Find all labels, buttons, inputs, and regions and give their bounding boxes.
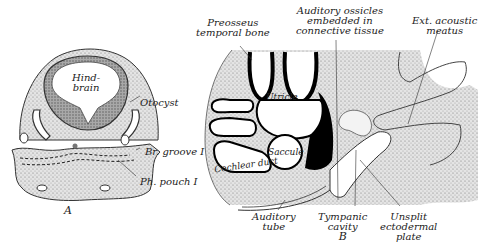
- panel-b-letter: B: [318, 232, 367, 242]
- label-auditory-tube: Auditory tube: [252, 212, 296, 232]
- label-plate-line3: plate: [380, 232, 437, 242]
- label-utricle: Utricle: [266, 92, 298, 102]
- label-meatus-line2: meatus: [412, 26, 477, 36]
- label-otocyst: Otocyst: [140, 98, 179, 108]
- label-br-groove: Br. groove I: [145, 147, 204, 157]
- panel-b-section: [205, 30, 478, 210]
- label-preosseus: Preosseus temporal bone: [196, 18, 270, 38]
- label-auditory-tube-line2: tube: [252, 222, 296, 232]
- label-ossicles: Auditory ossicles embedded in connective…: [296, 6, 384, 36]
- label-ossicles-line3: connective tissue: [296, 26, 384, 36]
- label-meatus: Ext. acoustic meatus: [412, 16, 477, 36]
- label-ectodermal-plate: Unsplit ectodermal plate: [380, 212, 437, 242]
- label-hindbrain-line2: brain: [72, 83, 100, 93]
- label-hindbrain: Hind- brain: [72, 73, 100, 93]
- label-ph-pouch: Ph. pouch I: [140, 177, 198, 187]
- panel-a-letter: A: [64, 206, 72, 216]
- label-preosseus-line2: temporal bone: [196, 28, 270, 38]
- label-tympanic-cavity: Tympanic cavity B: [318, 212, 367, 242]
